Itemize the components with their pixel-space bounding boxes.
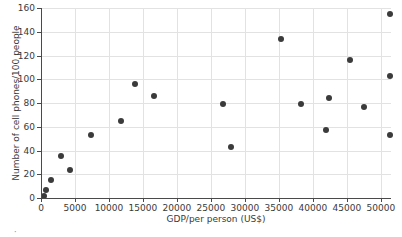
data-point bbox=[387, 11, 393, 17]
data-point bbox=[323, 127, 329, 133]
x-axis-tick-label: 35000 bbox=[265, 204, 294, 213]
data-point bbox=[58, 153, 64, 159]
data-point bbox=[67, 167, 73, 173]
x-axis-tick bbox=[211, 198, 212, 202]
data-point bbox=[278, 36, 284, 42]
data-point bbox=[118, 118, 124, 124]
x-axis-title: GDP/per person (US$) bbox=[41, 214, 391, 224]
y-axis-tick-label: 40 bbox=[24, 147, 35, 156]
data-point bbox=[132, 81, 138, 87]
x-axis-tick-label: 10000 bbox=[95, 204, 124, 213]
x-axis-spine bbox=[41, 198, 391, 199]
data-point bbox=[88, 132, 94, 138]
y-axis-tick-label: 0 bbox=[29, 194, 35, 203]
gridline-horizontal bbox=[41, 174, 391, 175]
y-axis-spine bbox=[41, 8, 42, 198]
data-point bbox=[326, 95, 332, 101]
data-point bbox=[387, 73, 393, 79]
gridline-horizontal bbox=[41, 127, 391, 128]
y-axis-tick-label: 80 bbox=[24, 99, 35, 108]
plot-area: 020406080100120140160 bbox=[41, 8, 391, 198]
x-axis-tick bbox=[41, 198, 42, 202]
x-axis-tick-label: 50000 bbox=[366, 204, 395, 213]
data-point bbox=[298, 101, 304, 107]
gridline-horizontal bbox=[41, 151, 391, 152]
x-axis-tick-label: 45000 bbox=[332, 204, 361, 213]
scatter-chart-figure: 020406080100120140160 050001000015000200… bbox=[0, 0, 402, 237]
gridline-horizontal bbox=[41, 103, 391, 104]
gridline-horizontal bbox=[41, 79, 391, 80]
x-axis-tick bbox=[279, 198, 280, 202]
x-axis-tick-label: 30000 bbox=[231, 204, 260, 213]
x-axis-tick bbox=[347, 198, 348, 202]
data-point bbox=[361, 104, 367, 110]
gridline-horizontal bbox=[41, 8, 391, 9]
data-point bbox=[151, 93, 157, 99]
x-axis-tick-label: 15000 bbox=[129, 204, 158, 213]
corner-mark: · bbox=[14, 229, 17, 237]
data-point bbox=[220, 101, 226, 107]
data-point bbox=[387, 132, 393, 138]
x-axis-tick bbox=[75, 198, 76, 202]
y-axis-tick-label: 20 bbox=[24, 170, 35, 179]
x-axis-tick bbox=[381, 198, 382, 202]
data-point bbox=[228, 144, 234, 150]
y-axis-tick-label: 60 bbox=[24, 123, 35, 132]
x-axis-tick bbox=[177, 198, 178, 202]
x-axis-tick-label: 0 bbox=[38, 204, 44, 213]
gridline-horizontal bbox=[41, 32, 391, 33]
x-axis-tick bbox=[245, 198, 246, 202]
y-axis-title: Number of cell phones/100 people bbox=[10, 8, 22, 198]
x-axis-tick bbox=[109, 198, 110, 202]
x-axis-tick bbox=[313, 198, 314, 202]
x-axis-tick-label: 25000 bbox=[197, 204, 226, 213]
data-point bbox=[48, 177, 54, 183]
x-axis-tick-label: 20000 bbox=[163, 204, 192, 213]
data-point bbox=[43, 187, 49, 193]
data-point bbox=[347, 57, 353, 63]
x-axis-tick-label: 5000 bbox=[64, 204, 87, 213]
x-axis-tick bbox=[143, 198, 144, 202]
x-axis-tick-label: 40000 bbox=[299, 204, 328, 213]
gridline-horizontal bbox=[41, 56, 391, 57]
